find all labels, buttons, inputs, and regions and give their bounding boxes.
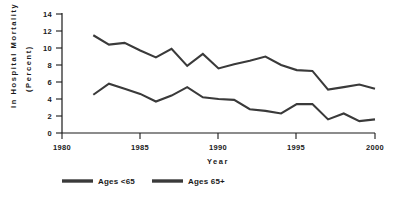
series-line-ages-65-plus [93,35,375,89]
x-tick-label: 1985 [131,143,149,152]
y-tick-label: 10 [43,44,52,53]
y-axis-title-line2: (Percent) [24,45,33,92]
line-chart: In Hospital Mortality (Percent) 14 12 10… [0,0,396,199]
y-axis-tick-labels: 14 12 10 8 6 4 2 0 [43,10,52,138]
legend-label-ages-65-plus: Ages 65+ [188,177,225,186]
x-tick-label: 1995 [287,143,305,152]
y-tick-label: 14 [43,10,52,19]
y-tick-label: 8 [48,61,52,70]
chart-container: In Hospital Mortality (Percent) 14 12 10… [0,0,396,199]
chart-legend: Ages <65 Ages 65+ [62,177,225,186]
legend-label-ages-under-65: Ages <65 [98,177,135,186]
y-tick-label: 6 [48,78,52,87]
x-axis-ticks [62,133,375,139]
y-tick-label: 0 [48,129,52,138]
y-tick-label: 4 [48,95,53,104]
x-tick-label: 1990 [209,143,227,152]
y-axis-ticks [56,14,62,133]
y-axis-title-line1: In Hospital Mortality [9,3,18,108]
y-tick-label: 12 [43,27,52,36]
x-axis-title: Year [207,157,229,166]
x-tick-label: 2000 [366,143,384,152]
y-axis-title: In Hospital Mortality (Percent) [9,3,33,108]
x-axis-tick-labels: 1980 1985 1990 1995 2000 [53,143,384,152]
x-tick-label: 1980 [53,143,71,152]
y-tick-label: 2 [48,112,52,121]
